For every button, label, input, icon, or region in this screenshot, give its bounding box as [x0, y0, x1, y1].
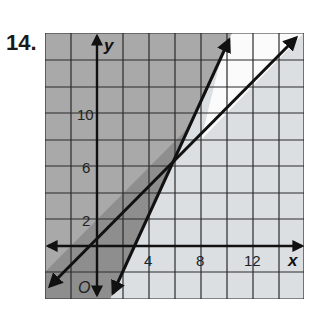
y-tick-10: 10 — [77, 106, 94, 123]
origin-label: O — [78, 279, 90, 296]
y-tick-2: 2 — [82, 212, 90, 229]
y-tick-6: 6 — [82, 159, 90, 176]
x-tick-4: 4 — [144, 252, 152, 269]
y-axis-label: y — [103, 36, 115, 55]
x-tick-8: 8 — [196, 252, 204, 269]
x-tick-12: 12 — [244, 252, 261, 269]
coordinate-graph: y x O 4 8 12 2 6 10 — [0, 0, 318, 318]
x-axis-label: x — [287, 251, 299, 270]
